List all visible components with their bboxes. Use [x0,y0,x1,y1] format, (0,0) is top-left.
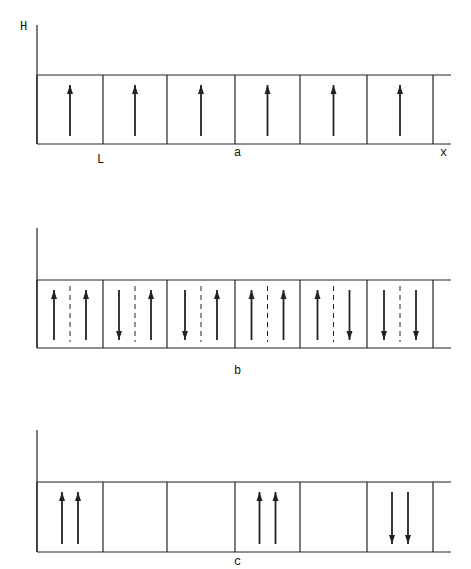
arrow-up-icon [315,290,321,299]
y-axis-label-h: H [20,20,27,34]
arrow-up-icon [249,290,255,299]
arrow-up-icon [148,290,154,299]
arrow-down-icon [347,331,353,340]
arrow-down-icon [405,535,411,544]
arrow-up-icon [281,290,287,299]
arrow-up-icon [83,290,89,299]
x-axis-label-x: x [440,146,447,160]
arrow-up-icon [257,492,263,501]
arrow-down-icon [381,331,387,340]
arrow-down-icon [182,331,188,340]
arrow-down-icon [116,331,122,340]
arrow-up-icon [51,290,57,299]
caption-c: c [234,555,241,569]
arrow-up-icon [265,85,271,94]
arrow-up-icon [59,492,65,501]
arrow-down-icon [389,535,395,544]
arrow-down-icon [413,331,419,340]
caption-b: b [234,364,241,378]
arrow-up-icon [132,85,138,94]
arrow-up-icon [273,492,279,501]
arrow-up-icon [198,85,204,94]
arrow-up-icon [67,85,73,94]
arrow-up-icon [75,492,81,501]
cell-width-label-l: L [97,153,104,167]
caption-a: a [234,146,241,160]
arrow-up-icon [397,85,403,94]
arrow-up-icon [214,290,220,299]
arrow-up-icon [331,85,337,94]
